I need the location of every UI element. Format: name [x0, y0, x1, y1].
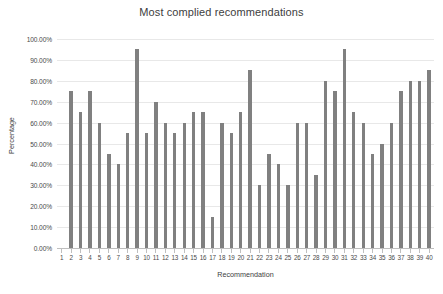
x-tick — [123, 249, 132, 253]
x-axis-tick-label: 18 — [217, 254, 226, 266]
x-axis-tick-label: 5 — [95, 254, 104, 266]
bar — [277, 164, 280, 248]
tick-mark — [325, 249, 326, 253]
tick-mark — [118, 249, 119, 253]
x-tick — [170, 249, 179, 253]
bar — [399, 91, 402, 248]
x-axis-tick-label: 39 — [415, 254, 424, 266]
bar-slot — [66, 39, 75, 248]
x-tick — [255, 249, 264, 253]
x-axis-tick-label: 2 — [66, 254, 75, 266]
bar — [380, 144, 383, 249]
bar-slot — [236, 39, 245, 248]
bar — [371, 154, 374, 248]
y-axis-tick-label: 30.00% — [30, 182, 52, 189]
bar-slot — [415, 39, 424, 248]
tick-mark — [71, 249, 72, 253]
tick-mark — [268, 249, 269, 253]
x-tick — [302, 249, 311, 253]
bar — [192, 112, 195, 248]
x-tick — [311, 249, 320, 253]
tick-mark — [155, 249, 156, 253]
bar-slot — [161, 39, 170, 248]
x-tick — [424, 249, 433, 253]
bar — [296, 123, 299, 248]
bar-slot — [321, 39, 330, 248]
x-axis-tick-label: 40 — [424, 254, 433, 266]
x-tick — [189, 249, 198, 253]
bar-slot — [302, 39, 311, 248]
bar-slot — [340, 39, 349, 248]
x-axis-tick-label: 14 — [179, 254, 188, 266]
tick-mark — [278, 249, 279, 253]
bar-slot — [377, 39, 386, 248]
tick-mark — [108, 249, 109, 253]
x-tick — [321, 249, 330, 253]
tick-mark — [137, 249, 138, 253]
bar — [98, 123, 101, 248]
y-axis-tick-label: 50.00% — [30, 140, 52, 147]
bar — [126, 133, 129, 248]
x-tick — [283, 249, 292, 253]
tick-mark — [382, 249, 383, 253]
y-axis-tick-label: 80.00% — [30, 77, 52, 84]
x-tick — [227, 249, 236, 253]
tick-mark — [165, 249, 166, 253]
bar-slot — [424, 39, 433, 248]
bar — [239, 112, 242, 248]
bar-slot — [359, 39, 368, 248]
tick-mark — [193, 249, 194, 253]
x-axis-tick-label: 11 — [151, 254, 160, 266]
x-axis-tick-labels: 1234567891011121314151617181920212223242… — [57, 254, 434, 266]
tick-mark — [259, 249, 260, 253]
tick-mark — [400, 249, 401, 253]
x-tick — [76, 249, 85, 253]
bar-slot — [142, 39, 151, 248]
bar-slot — [255, 39, 264, 248]
bar — [314, 175, 317, 248]
bar — [324, 81, 327, 248]
bar-slot — [368, 39, 377, 248]
bar-slot — [311, 39, 320, 248]
x-axis-tick-label: 1 — [57, 254, 66, 266]
x-tick — [368, 249, 377, 253]
x-axis-tick-label: 19 — [227, 254, 236, 266]
chart-title: Most complied recommendations — [0, 6, 443, 18]
x-axis-tick-label: 3 — [76, 254, 85, 266]
bar — [352, 112, 355, 248]
tick-mark — [89, 249, 90, 253]
tick-mark — [146, 249, 147, 253]
bar — [305, 123, 308, 248]
x-axis-tick-label: 36 — [387, 254, 396, 266]
y-axis-tick-label: 20.00% — [30, 203, 52, 210]
tick-mark — [287, 249, 288, 253]
x-axis-tick-label: 8 — [123, 254, 132, 266]
bar — [69, 91, 72, 248]
bar — [230, 133, 233, 248]
x-axis-tick-label: 33 — [359, 254, 368, 266]
x-axis-tick-label: 12 — [161, 254, 170, 266]
x-axis-tick-label: 37 — [396, 254, 405, 266]
tick-mark — [363, 249, 364, 253]
bar-slot — [95, 39, 104, 248]
x-tick — [179, 249, 188, 253]
bar-slot — [198, 39, 207, 248]
y-axis-tick-label: 60.00% — [30, 119, 52, 126]
x-axis-tick-label: 13 — [170, 254, 179, 266]
tick-mark — [80, 249, 81, 253]
bar — [343, 49, 346, 248]
x-tick — [245, 249, 254, 253]
x-tick — [85, 249, 94, 253]
bar — [107, 154, 110, 248]
x-axis-tick-label: 15 — [189, 254, 198, 266]
bar — [135, 49, 138, 248]
x-axis-tick-label: 26 — [293, 254, 302, 266]
x-tick — [396, 249, 405, 253]
x-axis-tick-label: 31 — [340, 254, 349, 266]
y-axis-tick-label: 100.00% — [27, 36, 52, 43]
bar-slot — [227, 39, 236, 248]
tick-mark — [240, 249, 241, 253]
x-axis-tick-label: 30 — [330, 254, 339, 266]
bar-slot — [104, 39, 113, 248]
x-axis-tick-label: 20 — [236, 254, 245, 266]
